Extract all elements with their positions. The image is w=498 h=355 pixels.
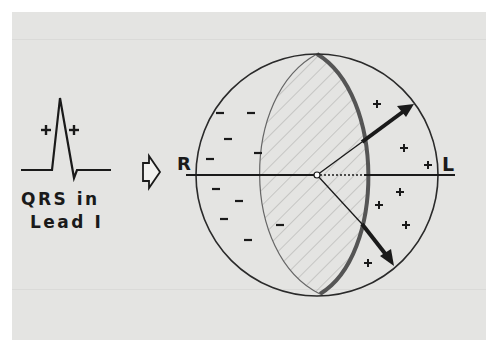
caption-line-1: QRS in [21,188,100,211]
hollow-right-arrow-icon [143,156,160,188]
left-arm-pole-label: L [442,153,454,175]
plus-sign-icon [69,125,79,135]
qrs-waveform-icon [21,98,111,178]
origin-point [314,172,320,178]
caption-line-2: Lead I [30,211,103,234]
plus-sign-icon [41,125,51,135]
right-arm-pole-label: R [177,153,191,174]
diagram-canvas [0,0,498,355]
